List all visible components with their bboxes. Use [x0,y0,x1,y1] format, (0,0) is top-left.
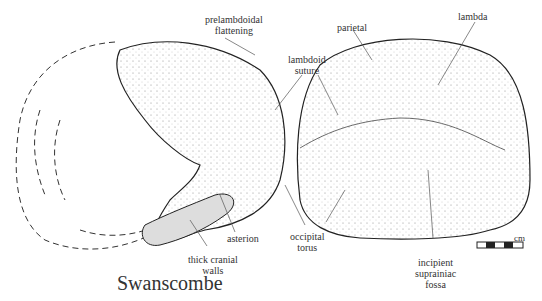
figure-title: Swanscombe [117,272,223,295]
label-occipital-torus: occipital torus [290,231,324,253]
label-lambdoid-suture: lambdoid suture [288,54,326,76]
label-asterion: asterion [227,233,259,244]
skull-illustration [0,0,542,301]
label-incipient-suprainiac-fossa: incipient suprainiac fossa [415,257,456,290]
label-lambda: lambda [458,11,487,22]
label-parietal: parietal [337,22,367,33]
label-prelambdoidal-flattening: prelambdoidal flattening [205,14,263,36]
scale-unit: cm [514,233,525,244]
